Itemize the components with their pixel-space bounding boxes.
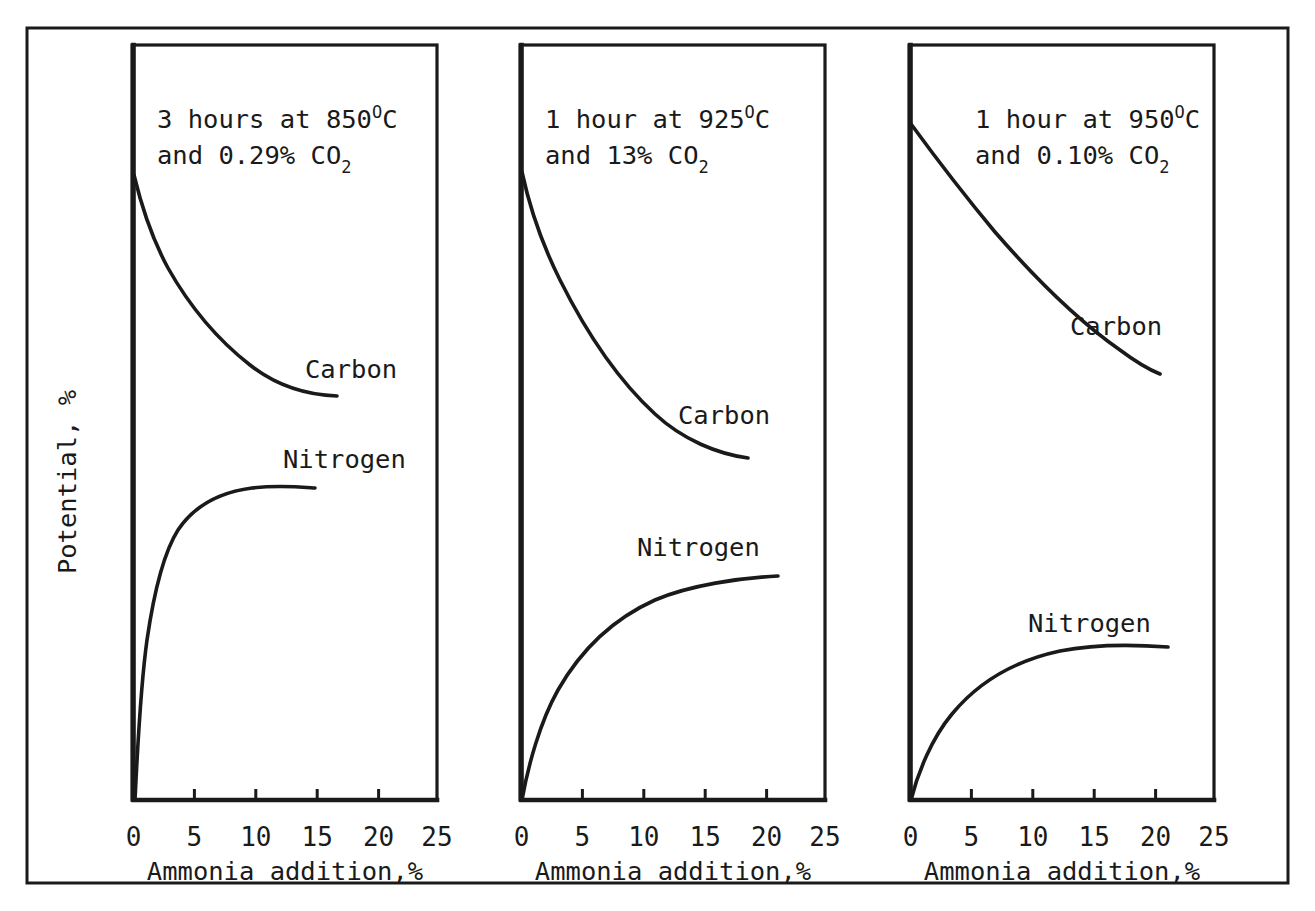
panel-3-nitrogen-curve: [911, 646, 1168, 800]
svg-text:15: 15: [1079, 822, 1110, 852]
panel-3-carbon-label: Carbon: [1070, 311, 1162, 341]
panel-1-annotation-line1: 3 hours at 850OC: [157, 102, 398, 134]
svg-text:5: 5: [187, 822, 203, 852]
y-axis-label: Potential, %: [52, 390, 82, 574]
panel-2-annotation-line2: and 13% CO2: [545, 140, 709, 177]
svg-text:10: 10: [240, 822, 271, 852]
panel-1-x-axis-label: Ammonia addition,%: [147, 856, 423, 886]
panel-2-tick-labels: 0 5 10 15 20 25: [514, 822, 841, 852]
panel-1-annotation-line2: and 0.29% CO2: [157, 140, 351, 177]
chart-svg: 3 hours at 850OC and 0.29% CO2 Carbon Ni…: [0, 0, 1315, 911]
panel-3: 1 hour at 950OC and 0.10% CO2 Carbon Nit…: [903, 45, 1230, 886]
svg-text:25: 25: [809, 822, 840, 852]
panel-1-tick-labels: 0 5 10 15 20 25: [126, 822, 453, 852]
svg-text:20: 20: [1140, 822, 1171, 852]
svg-text:10: 10: [1017, 822, 1048, 852]
panel-3-tick-labels: 0 5 10 15 20 25: [903, 822, 1230, 852]
svg-text:5: 5: [964, 822, 980, 852]
panel-2-carbon-label: Carbon: [678, 400, 770, 430]
panel-3-annotation-line2: and 0.10% CO2: [975, 140, 1169, 177]
svg-text:25: 25: [421, 822, 452, 852]
panel-3-nitrogen-label: Nitrogen: [1028, 608, 1151, 638]
svg-text:25: 25: [1198, 822, 1229, 852]
panel-1-nitrogen-curve: [135, 486, 315, 800]
figure-root: 3 hours at 850OC and 0.29% CO2 Carbon Ni…: [0, 0, 1315, 911]
panel-3-x-axis-label: Ammonia addition,%: [924, 856, 1200, 886]
svg-text:20: 20: [363, 822, 394, 852]
panel-3-annotation-line1: 1 hour at 950OC: [975, 102, 1200, 134]
panel-2-nitrogen-label: Nitrogen: [637, 532, 760, 562]
svg-text:0: 0: [126, 822, 142, 852]
svg-text:5: 5: [575, 822, 591, 852]
panel-2-x-axis-label: Ammonia addition,%: [535, 856, 811, 886]
svg-text:20: 20: [751, 822, 782, 852]
panel-2-nitrogen-curve: [522, 576, 778, 800]
panel-1-carbon-label: Carbon: [305, 354, 397, 384]
panel-2-annotation-line1: 1 hour at 925OC: [545, 102, 770, 134]
svg-text:15: 15: [690, 822, 721, 852]
svg-text:0: 0: [514, 822, 530, 852]
svg-text:15: 15: [302, 822, 333, 852]
panel-1: 3 hours at 850OC and 0.29% CO2 Carbon Ni…: [126, 45, 453, 886]
panel-2: 1 hour at 925OC and 13% CO2 Carbon Nitro…: [514, 45, 841, 886]
panel-1-nitrogen-label: Nitrogen: [283, 444, 406, 474]
svg-text:10: 10: [628, 822, 659, 852]
svg-text:0: 0: [903, 822, 919, 852]
